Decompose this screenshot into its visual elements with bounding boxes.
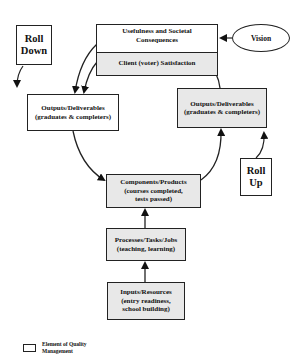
usefulness-label-line1: Usefulness and Societal <box>122 27 192 36</box>
components-line1: Components/Products <box>120 178 186 187</box>
outputs-left-line2: (graduates & completers) <box>35 113 111 122</box>
client-satisfaction-box: Client (voter) Satisfaction <box>96 52 218 76</box>
usefulness-box: Usefulness and Societal Consequences <box>96 24 218 53</box>
outputs-right-box: Outputs/Deliverables (graduates & comple… <box>177 88 267 128</box>
legend-swatch <box>23 344 36 352</box>
roll-up-line2: Up <box>249 177 262 189</box>
vision-ellipse: Vision <box>232 24 290 52</box>
processes-line1: Processes/Tasks/Jobs <box>115 236 178 245</box>
roll-down-box: Roll Down <box>16 25 52 65</box>
processes-box: Processes/Tasks/Jobs (teaching, learning… <box>106 228 186 261</box>
roll-up-box: Roll Up <box>240 158 272 196</box>
outputs-left-box: Outputs/Deliverables (graduates & comple… <box>27 94 119 131</box>
inputs-line2: (entry readiness, <box>121 297 171 306</box>
outputs-right-line1: Outputs/Deliverables <box>190 100 253 109</box>
inputs-line3: school building) <box>122 305 170 314</box>
vision-label: Vision <box>251 34 271 43</box>
roll-down-line1: Roll <box>25 33 44 45</box>
legend-line1: Element of Quality <box>42 341 87 348</box>
client-satisfaction-label: Client (voter) Satisfaction <box>119 59 196 68</box>
roll-down-line2: Down <box>21 45 47 57</box>
legend-text: Element of Quality Management <box>42 341 87 354</box>
components-box: Components/Products (courses completed, … <box>106 174 201 208</box>
roll-up-line1: Roll <box>247 165 266 177</box>
outputs-left-line1: Outputs/Deliverables <box>41 104 104 113</box>
usefulness-label-line2: Consequences <box>136 36 178 45</box>
inputs-line1: Inputs/Resources <box>120 288 172 297</box>
components-line2: (courses completed, <box>124 187 183 196</box>
components-line3: tests passed) <box>135 195 172 204</box>
inputs-box: Inputs/Resources (entry readiness, schoo… <box>107 282 185 320</box>
processes-line2: (teaching, learning) <box>117 245 175 254</box>
legend-line2: Management <box>42 348 87 355</box>
outputs-right-line2: (graduates & completers) <box>184 108 260 117</box>
